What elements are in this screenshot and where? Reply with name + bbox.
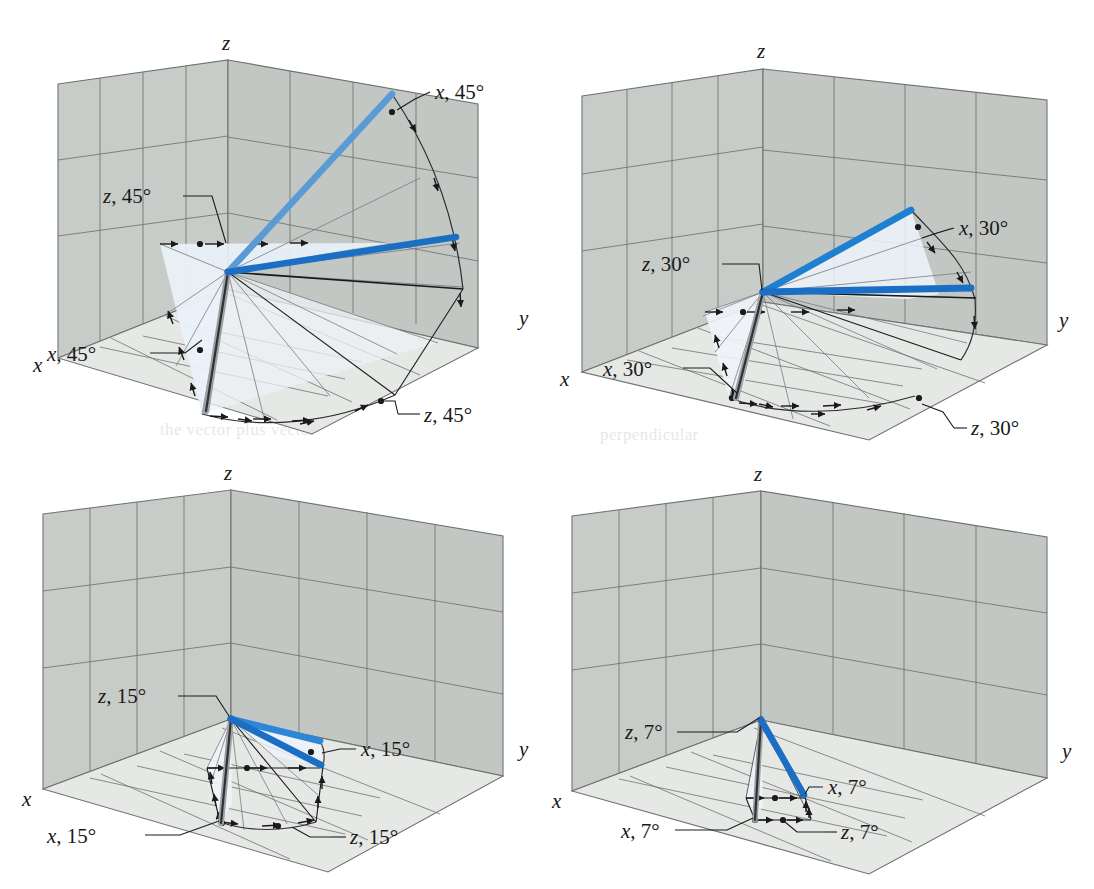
figure-container: the vector plus vector perpendicular — [0, 0, 1094, 889]
panel-45: x y z x, 45° z, 45° x, 45° z, 45° — [0, 0, 547, 448]
back-wall — [763, 69, 1047, 345]
callout-z-7-upper: z, 7° — [624, 720, 663, 744]
panel-7: x y z z, 7° x, 7° x, 7° z, 7° — [547, 444, 1094, 889]
callout-z-15-upper: z, 15° — [97, 684, 146, 708]
callout-x-45: x, 45° — [434, 80, 484, 104]
callout-x-30-lower: x, 30° — [602, 357, 652, 381]
callout-z-7-lower: z, 7° — [840, 820, 879, 844]
callout-x-45-lower: x, 45° — [46, 342, 96, 366]
callout-z-45-upper: z, 45° — [102, 184, 151, 208]
callout-x-30: x, 30° — [958, 216, 1008, 240]
axis-label-z: z — [756, 39, 765, 63]
axis-label-z: z — [221, 31, 230, 55]
vector-dark-blue — [763, 288, 971, 292]
callout-x-15: x, 15° — [360, 737, 410, 761]
callout-z-15-lower: z, 15° — [349, 825, 398, 849]
axis-label-z: z — [753, 462, 762, 486]
callout-x-7: x, 7° — [827, 775, 867, 799]
callout-z-30-lower: z, 30° — [970, 416, 1019, 440]
axis-label-x: x — [551, 789, 562, 813]
axis-label-z: z — [223, 461, 232, 485]
callout-z-45-lower: z, 45° — [423, 403, 472, 427]
panel-30: x y z x, 30° z, 30° x, 30° z, 30° — [547, 0, 1094, 448]
axis-label-x: x — [559, 367, 570, 391]
axis-label-x: x — [32, 353, 43, 377]
panel-15: x y z z, 15° x, 15° x, 15° z, 15° — [0, 444, 547, 889]
axis-label-y: y — [1060, 739, 1072, 763]
axis-label-x: x — [21, 787, 32, 811]
axis-label-y: y — [517, 737, 529, 761]
callout-z-30-upper: z, 30° — [641, 252, 690, 276]
callout-x-7-lower: x, 7° — [620, 819, 660, 843]
axis-label-y: y — [517, 306, 529, 330]
callout-x-15-lower: x, 15° — [46, 824, 96, 848]
axis-label-y: y — [1057, 308, 1069, 332]
